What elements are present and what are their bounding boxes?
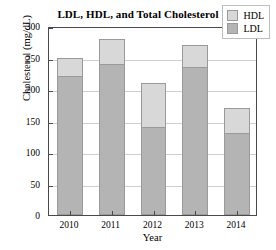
bar-segment-hdl[interactable] [141, 83, 167, 128]
legend-label-ldl: LDL [243, 24, 262, 34]
x-axis-tick-label: 2010 [59, 220, 78, 230]
x-axis-tick-mark [195, 211, 196, 215]
legend-label-hdl: HDL [243, 11, 264, 21]
y-axis-tick-mark [49, 186, 53, 187]
bar-segment-hdl[interactable] [224, 108, 250, 134]
bar-group[interactable] [141, 27, 167, 215]
legend-swatch-ldl-icon [227, 23, 238, 34]
bar-group[interactable] [182, 27, 208, 215]
chart-legend: HDL LDL [222, 5, 270, 39]
y-axis-tick-mark [49, 60, 53, 61]
legend-item-hdl: HDL [227, 9, 264, 22]
bar-segment-hdl[interactable] [99, 39, 125, 65]
bar-segment-hdl[interactable] [182, 45, 208, 68]
legend-swatch-hdl-icon [227, 10, 238, 21]
y-axis-tick-label: 300 [0, 22, 44, 32]
bar-group[interactable] [99, 27, 125, 215]
y-axis-tick-label: 200 [0, 85, 44, 95]
y-axis-tick-label: 100 [0, 148, 44, 158]
x-axis-tick-mark [70, 211, 71, 215]
bar-segment-ldl[interactable] [182, 67, 208, 215]
y-axis-tick-label: 50 [0, 180, 44, 190]
y-axis-tick-label: 150 [0, 117, 44, 127]
x-axis-label: Year [48, 232, 257, 243]
y-axis-tick-mark [49, 123, 53, 124]
bar-group[interactable] [57, 27, 83, 215]
x-axis-tick-label: 2012 [143, 220, 162, 230]
bar-segment-ldl[interactable] [224, 133, 250, 215]
legend-item-ldl: LDL [227, 22, 264, 35]
x-axis-tick-label: 2011 [101, 220, 120, 230]
bar-group[interactable] [224, 27, 250, 215]
y-axis-tick-mark [49, 91, 53, 92]
bar-segment-ldl[interactable] [99, 64, 125, 215]
chart-figure: LDL, HDL, and Total Cholesterol Choleste… [0, 0, 276, 250]
x-axis-tick-mark [237, 211, 238, 215]
plot-area [48, 27, 257, 216]
bar-segment-ldl[interactable] [57, 76, 83, 215]
bar-segment-ldl[interactable] [141, 127, 167, 215]
y-axis-tick-label: 250 [0, 54, 44, 64]
x-axis-tick-label: 2014 [227, 220, 246, 230]
y-axis-tick-mark [49, 154, 53, 155]
bar-segment-hdl[interactable] [57, 58, 83, 78]
x-axis-tick-label: 2013 [185, 220, 204, 230]
y-axis-tick-mark [49, 28, 53, 29]
y-axis-tick-label: 0 [0, 211, 44, 221]
x-axis-tick-mark [112, 211, 113, 215]
x-axis-tick-mark [154, 211, 155, 215]
